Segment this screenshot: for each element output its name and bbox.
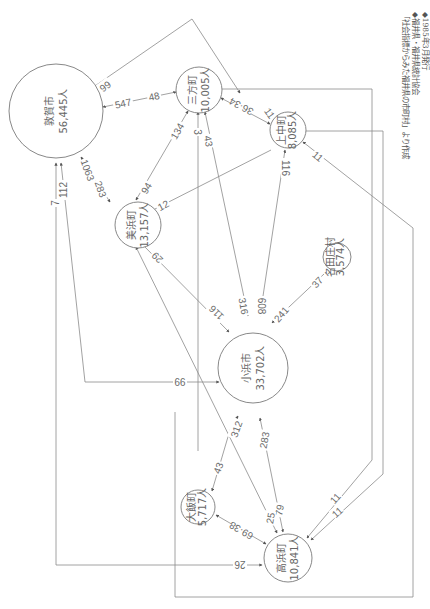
label-mihama-obama-29: 29 (149, 250, 165, 266)
label-tsuruga-takahama-7: 7 (50, 200, 61, 206)
label-mikata-kaminaka: 36·34 (227, 95, 255, 117)
node-mihama[interactable]: 美浜町 13,157人 (115, 202, 161, 248)
source-line-1: 「社会指標からみた福井県の市町村」より作成 (401, 12, 411, 160)
label-tsuruga-takahama-26: 26 (234, 559, 246, 570)
label-obama-takahama-283: 283 (258, 430, 272, 449)
edge-tsuruga-obama (61, 163, 219, 382)
node-mikata[interactable]: 三方町 10,005人 (176, 67, 222, 113)
node-mikata-name: 三方町 (186, 75, 198, 105)
label-mikata-obama-3: 3 (192, 129, 203, 135)
node-natashou-pop: 3,574人 (335, 238, 346, 277)
node-tsuruga[interactable]: 敦賀市 56,445人 (9, 64, 103, 158)
node-takahama-pop: 10,841人 (289, 536, 300, 581)
label-tsuruga-obama-112: 112 (58, 182, 69, 198)
label-kaminaka-mihama: 12 (156, 198, 171, 213)
label-tsuruga-mihama-a: 1063 (79, 158, 97, 183)
node-ooi[interactable]: 大飯町 5,717人 (181, 488, 215, 527)
node-mihama-name: 美浜町 (125, 210, 137, 240)
node-natashou[interactable]: 名田庄村 3,574人 (323, 237, 351, 277)
label-ooi-takahama: 69·38 (227, 519, 255, 542)
node-kaminaka-pop: 8,085人 (287, 111, 298, 150)
node-takahama[interactable]: 高浜町 10,841人 (264, 534, 312, 582)
node-ooi-pop: 5,717人 (197, 488, 208, 527)
nodes: 敦賀市 56,445人 三方町 10,005人 上中町 8,085人 美浜町 1… (9, 64, 351, 582)
node-obama-pop: 33,702人 (255, 346, 266, 391)
node-ooi-name: 大飯町 (185, 492, 197, 522)
edge-outer-loop (175, 142, 413, 597)
node-obama-name: 小浜市 (240, 353, 252, 383)
source-line-2: ◆福井県・福井県統計協会 (411, 12, 421, 96)
node-obama[interactable]: 小浜市 33,702人 (218, 333, 288, 403)
node-mikata-pop: 10,005人 (200, 68, 211, 113)
source-line-3: ◆1985年3月発行 (421, 12, 430, 71)
label-mikata-obama-316: 316 (237, 297, 251, 316)
label-tsuruga-obama-99: 99 (174, 376, 186, 387)
label-kaminaka-tsuruga-a: 99 (98, 78, 114, 94)
label-mikata-takahama-11: 11 (328, 490, 343, 505)
label-natashou-obama-37: 37 (310, 274, 326, 290)
label-mikata-mihama-b: 94 (139, 180, 154, 196)
source-note: 「社会指標からみた福井県の市町村」より作成 ◆福井県・福井県統計協会 ◆1985… (401, 12, 430, 160)
label-outer-loop-11: 11 (310, 149, 325, 164)
label-kaminaka-takahama-11: 11 (330, 505, 345, 520)
node-kaminaka-name: 上中町 (275, 115, 287, 145)
label-kaminaka-obama-608: 608 (256, 298, 267, 315)
node-takahama-name: 高浜町 (275, 543, 287, 573)
label-tsuruga-mikata-a: 547 (114, 96, 133, 110)
node-tsuruga-name: 敦賀市 (43, 96, 55, 126)
node-kaminaka[interactable]: 上中町 8,085人 (270, 111, 306, 150)
node-tsuruga-pop: 56,445人 (58, 89, 69, 134)
label-kaminaka-obama-116: 116 (280, 160, 291, 176)
node-mihama-pop: 13,157人 (139, 203, 150, 248)
flow-diagram: 99 11 547 48 1063 283 134 94 36·34 12 3 … (0, 0, 430, 609)
edge-kaminaka-takahama (305, 131, 383, 540)
